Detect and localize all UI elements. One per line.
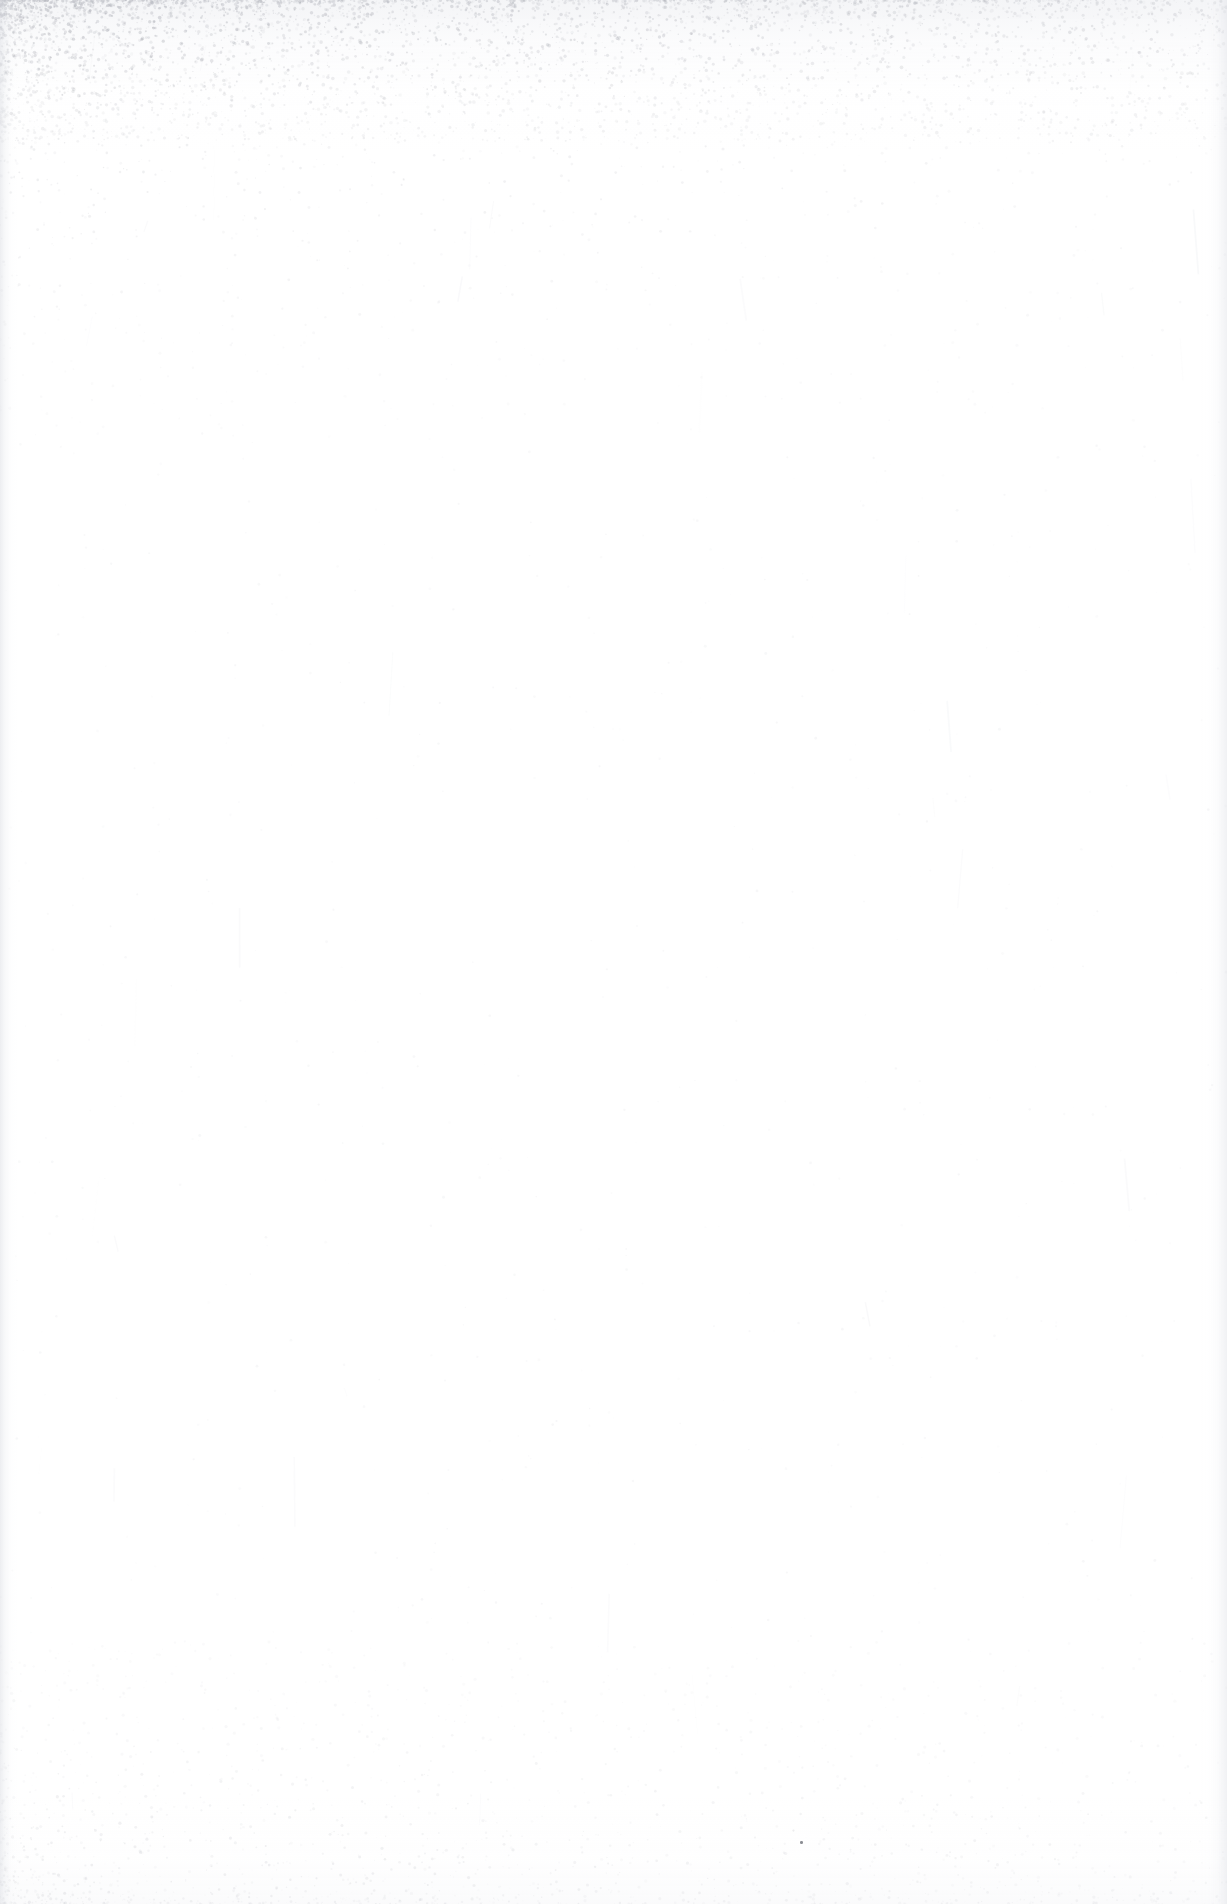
- paper-background: [0, 0, 1227, 1904]
- dust-speck: [800, 1841, 803, 1844]
- binding-gutter-shadow: [0, 0, 18, 1904]
- top-edge-wash: [0, 0, 1227, 150]
- bottom-edge-wash: [0, 1794, 1227, 1904]
- page-edge-shadow: [1201, 0, 1227, 1904]
- scanned-page: [0, 0, 1227, 1904]
